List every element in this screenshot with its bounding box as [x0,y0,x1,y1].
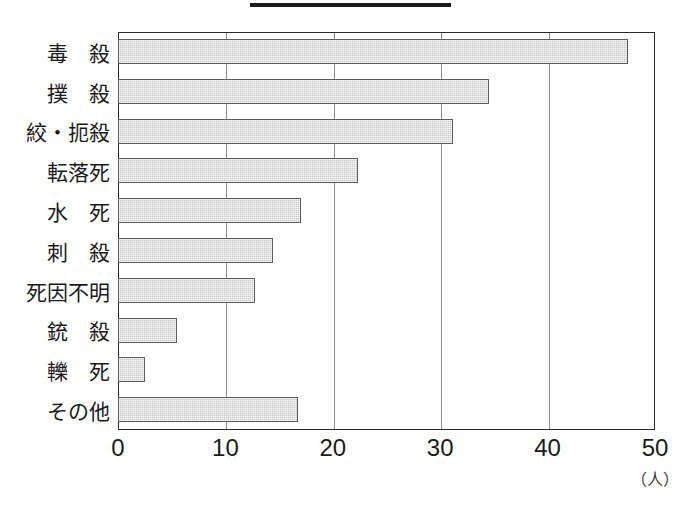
bar [118,397,298,422]
bar [118,119,453,144]
bar-row [118,112,655,152]
bar-row [118,271,655,311]
bar-row [118,350,655,390]
bar [118,198,301,223]
x-tick-40: 40 [534,434,561,462]
bar-row [118,390,655,430]
category-label: 刺 殺 [0,231,110,271]
bar [118,39,628,64]
title-underline-rule [250,3,451,7]
category-axis-labels: 毒 殺撲 殺絞・扼殺転落死水 死刺 殺死因不明銃 殺轢 死その他 [0,32,114,430]
bar-row [118,32,655,72]
bar [118,278,255,303]
bar-row [118,72,655,112]
x-tick-30: 30 [427,434,454,462]
category-label: 死因不明 [0,271,110,311]
category-label: 絞・扼殺 [0,112,110,152]
category-label: 轢 死 [0,350,110,390]
bar [118,158,358,183]
x-tick-0: 0 [111,434,124,462]
bar [118,357,145,382]
x-tick-20: 20 [319,434,346,462]
category-label: その他 [0,390,110,430]
bar-row [118,231,655,271]
category-label: 撲 殺 [0,72,110,112]
category-label: 銃 殺 [0,311,110,351]
bar-row [118,151,655,191]
bar-chart-figure: 毒 殺撲 殺絞・扼殺転落死水 死刺 殺死因不明銃 殺轢 死その他 0102030… [0,0,691,510]
bar [118,318,177,343]
bar-row [118,311,655,351]
bar-row [118,191,655,231]
x-axis-tick-labels: 01020304050 [0,434,691,464]
category-label: 水 死 [0,191,110,231]
bar [118,79,489,104]
x-tick-50: 50 [642,434,669,462]
x-tick-10: 10 [212,434,239,462]
category-label: 毒 殺 [0,32,110,72]
bar-series [118,32,655,430]
bar [118,238,273,263]
x-axis-unit-label: （人） [631,466,679,490]
category-label: 転落死 [0,151,110,191]
